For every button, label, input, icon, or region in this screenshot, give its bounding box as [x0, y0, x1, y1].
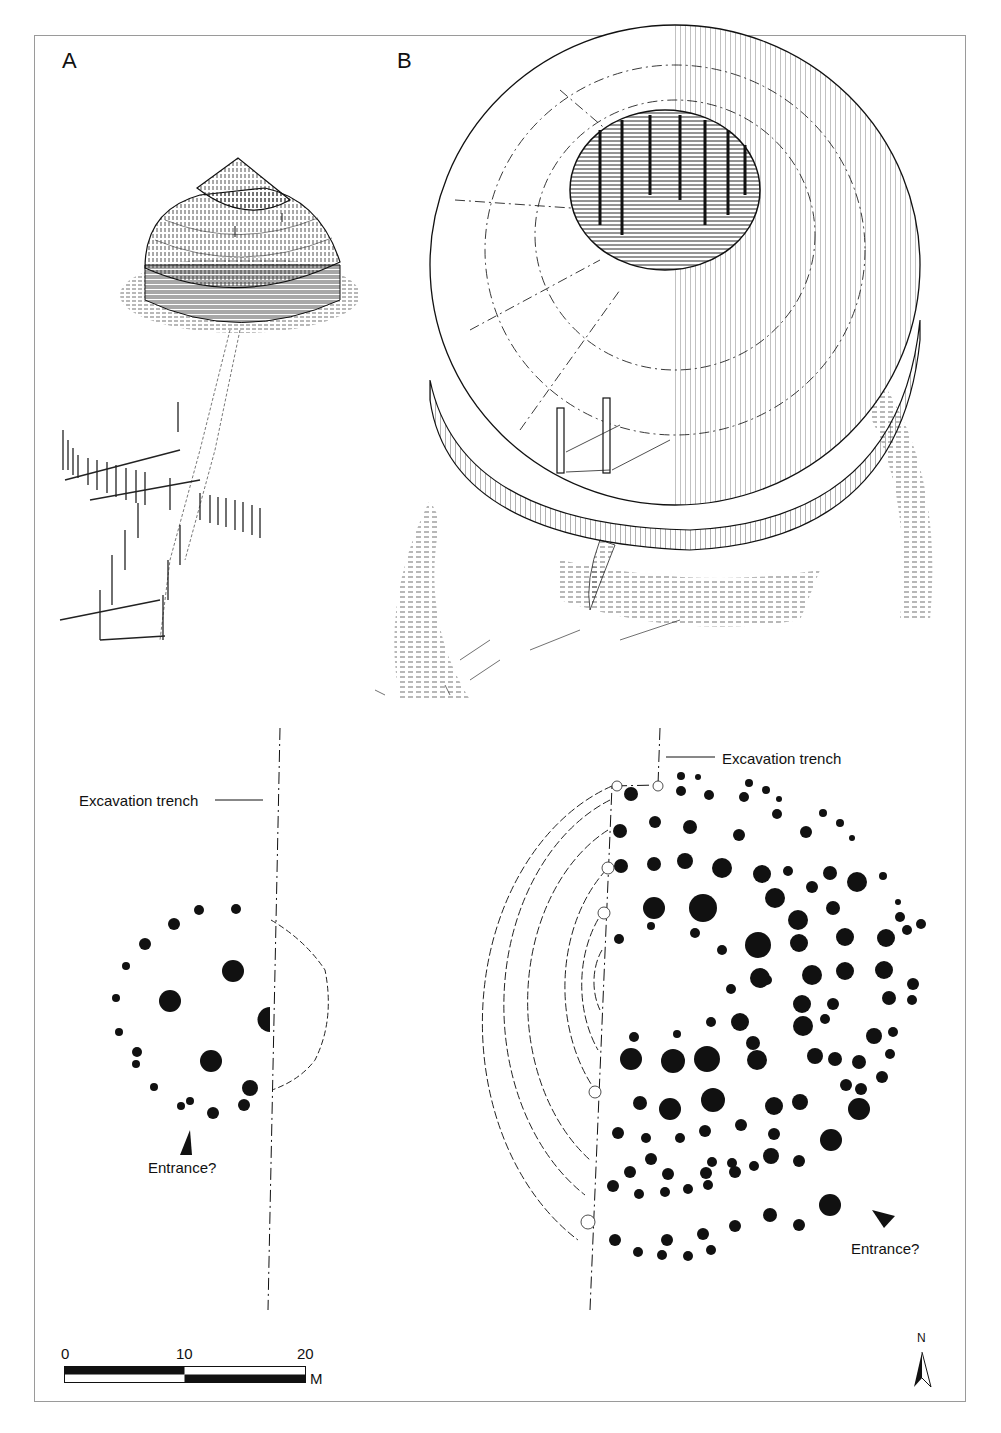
north-arrow-icon	[0, 0, 1001, 1433]
